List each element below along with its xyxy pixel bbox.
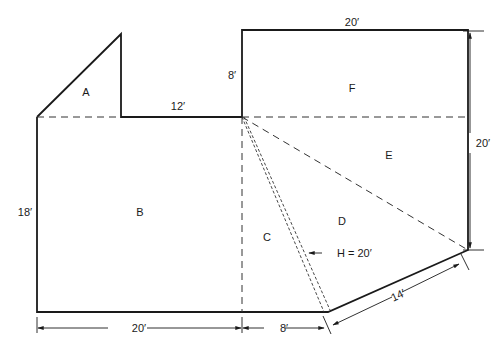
outline: [37, 30, 468, 312]
divider-c-d-a: [242, 117, 324, 312]
floor-plan-diagram: A B C D E F 20′ 8′ 12′ 18′ 20′ 20′ 8′ 14…: [0, 0, 500, 352]
dim-bottom-left-width: 20′: [132, 322, 146, 334]
region-label-d: D: [338, 215, 346, 227]
dim-top-right-width: 20′: [345, 16, 359, 28]
dim-height-annotation: H = 20′: [337, 247, 372, 259]
region-label-f: F: [349, 82, 356, 94]
region-label-e: E: [385, 149, 392, 161]
dotted-divisions: [242, 117, 330, 312]
divider-d-e: [242, 117, 468, 250]
region-label-b: B: [136, 206, 143, 218]
dim-left-height: 18′: [18, 206, 32, 218]
outer-boundary: [37, 30, 468, 312]
region-label-a: A: [82, 86, 90, 98]
divider-c-d-b: [244, 117, 330, 310]
dim-upper-step-height: 8′: [228, 69, 236, 81]
dashed-divisions: [37, 117, 468, 312]
dimension-lines: [37, 31, 484, 334]
dim-right-height: 20′: [476, 137, 490, 149]
dim-bottom-mid-width: 8′: [280, 322, 288, 334]
dim-diagonal-length: 14′: [389, 287, 407, 304]
dim-ledge-width: 12′: [171, 100, 185, 112]
region-label-c: C: [263, 231, 271, 243]
